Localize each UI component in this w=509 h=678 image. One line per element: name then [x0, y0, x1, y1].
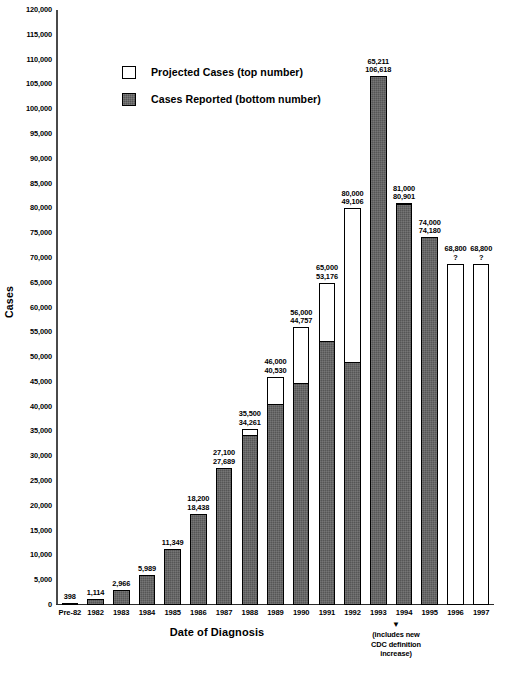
y-axis-tick-95000: 95,000 — [30, 130, 52, 137]
reported-value-1985: 11,349 — [162, 539, 184, 548]
y-axis-tick-85000: 85,000 — [30, 180, 52, 187]
cdc-note-line-1: (includes new — [344, 630, 448, 640]
y-axis-tick-35000: 35,000 — [30, 428, 52, 435]
reported-bar-1985 — [164, 549, 181, 605]
reported-bar-1993 — [370, 76, 387, 605]
value-label-1982: 1,114 — [87, 589, 105, 598]
x-axis-tick-1997: 1997 — [468, 608, 494, 617]
x-axis-tick-1990: 1990 — [288, 608, 314, 617]
reported-value-1986: 18,438 — [187, 504, 209, 513]
legend-item-reported: Cases Reported (bottom number) — [122, 89, 321, 109]
x-axis-tick-1994: 1994 — [391, 608, 417, 617]
reported-value-1992: 49,106 — [342, 198, 364, 207]
reported-value-1990: 44,757 — [290, 317, 312, 326]
value-label-1983: 2,966 — [112, 580, 130, 589]
reported-value-pre-82: 398 — [64, 593, 76, 602]
y-axis-tick-115000: 115,000 — [26, 31, 52, 38]
y-axis-tick-110000: 110,000 — [26, 56, 52, 63]
y-axis-tick-50000: 50,000 — [30, 353, 52, 360]
bar-group-pre-82: 398 — [62, 603, 79, 605]
value-label-1990: 56,00044,757 — [290, 309, 312, 326]
y-axis-tick-80000: 80,000 — [30, 205, 52, 212]
y-axis-tick-30000: 30,000 — [30, 453, 52, 460]
reported-bar-pre-82 — [62, 603, 79, 605]
reported-bar-1990 — [293, 383, 310, 605]
x-axis-tick-pre-82: Pre-82 — [57, 608, 83, 617]
reported-value-1987: 27,689 — [213, 458, 235, 467]
y-axis-tick-45000: 45,000 — [30, 378, 52, 385]
bar-group-1997: 68,800? — [473, 264, 490, 605]
y-axis-tick-100000: 100,000 — [26, 105, 52, 112]
x-axis-tick-1982: 1982 — [83, 608, 109, 617]
reported-bar-1995 — [421, 237, 438, 605]
y-axis-tick-15000: 15,000 — [30, 527, 52, 534]
reported-value-1988: 34,261 — [239, 419, 261, 428]
figure-caption — [60, 670, 490, 678]
y-axis-tick-10000: 10,000 — [30, 552, 52, 559]
bar-group-1988: 35,50034,261 — [242, 429, 259, 605]
reported-value-1994: 80,901 — [393, 193, 415, 202]
x-axis-tick-labels: Pre-821982198319841985198619871988198919… — [57, 608, 494, 624]
x-axis-tick-1995: 1995 — [417, 608, 443, 617]
cdc-note-arrow-icon: ▼ — [392, 621, 400, 629]
legend-label-reported: Cases Reported (bottom number) — [151, 93, 321, 105]
value-label-1988: 35,50034,261 — [239, 410, 261, 427]
bar-group-1990: 56,00044,757 — [293, 327, 310, 605]
x-axis-tick-1988: 1988 — [237, 608, 263, 617]
reported-bar-1991 — [319, 341, 336, 605]
bar-group-1991: 65,00053,176 — [319, 283, 336, 605]
y-axis-title: Cases — [3, 279, 15, 325]
x-axis-tick-1983: 1983 — [108, 608, 134, 617]
value-label-1986: 18,20018,438 — [187, 495, 209, 512]
y-axis-tick-40000: 40,000 — [30, 403, 52, 410]
value-label-1987: 27,10027,689 — [213, 449, 235, 466]
bar-group-1984: 5,989 — [139, 575, 156, 605]
bar-group-1992: 80,00049,106 — [344, 208, 361, 605]
y-axis-tick-20000: 20,000 — [30, 502, 52, 509]
reported-bar-1982 — [87, 599, 104, 605]
y-axis-tick-105000: 105,000 — [26, 81, 52, 88]
reported-value-1989: 40,530 — [264, 367, 286, 376]
reported-bar-1983 — [113, 590, 130, 605]
value-label-1989: 46,00040,530 — [264, 358, 286, 375]
legend-label-projected: Projected Cases (top number) — [151, 66, 303, 78]
x-axis-tick-1992: 1992 — [340, 608, 366, 617]
bar-group-1987: 27,10027,689 — [216, 468, 233, 605]
value-label-1991: 65,00053,176 — [316, 264, 338, 281]
bar-group-1995: 74,00074,180 — [421, 237, 438, 605]
bar-group-1982: 1,114 — [87, 599, 104, 605]
reported-bar-1994 — [396, 204, 413, 605]
reported-bar-1986 — [190, 514, 207, 605]
y-axis-tick-labels: 05,00010,00015,00020,00025,00030,00035,0… — [0, 0, 52, 678]
projected-bar-1997 — [473, 264, 490, 605]
reported-value-1995: 74,180 — [419, 227, 441, 236]
x-axis-tick-1986: 1986 — [186, 608, 212, 617]
reported-bar-1987 — [216, 468, 233, 605]
y-axis-tick-75000: 75,000 — [30, 229, 52, 236]
value-label-1992: 80,00049,106 — [342, 190, 364, 207]
x-axis-tick-1989: 1989 — [263, 608, 289, 617]
legend-swatch-projected-icon — [122, 66, 136, 79]
value-label-1994: 81,00080,901 — [393, 185, 415, 202]
reported-value-1993: 106,618 — [365, 66, 391, 75]
cdc-definition-annotation: (includes new CDC definition increase) — [344, 630, 448, 659]
y-axis-tick-70000: 70,000 — [30, 254, 52, 261]
reported-bar-1984 — [139, 575, 156, 605]
bar-group-1983: 2,966 — [113, 590, 130, 605]
bar-group-1996: 68,800? — [447, 264, 464, 605]
bar-group-1994: 81,00080,901 — [396, 203, 413, 605]
aids-cases-bar-chart: 05,00010,00015,00020,00025,00030,00035,0… — [0, 0, 509, 678]
reported-value-1997: ? — [470, 254, 492, 263]
reported-bar-1988 — [242, 435, 259, 605]
reported-bar-1992 — [344, 362, 361, 605]
reported-bar-1989 — [267, 404, 284, 605]
x-axis-tick-1996: 1996 — [443, 608, 469, 617]
x-axis-tick-1985: 1985 — [160, 608, 186, 617]
projected-bar-1996 — [447, 264, 464, 605]
value-label-1984: 5,989 — [138, 565, 156, 574]
y-axis-tick-25000: 25,000 — [30, 477, 52, 484]
cdc-note-line-3: increase) — [344, 649, 448, 659]
y-axis-tick-0: 0 — [48, 601, 52, 608]
bar-group-1989: 46,00040,530 — [267, 377, 284, 605]
y-axis-tick-90000: 90,000 — [30, 155, 52, 162]
